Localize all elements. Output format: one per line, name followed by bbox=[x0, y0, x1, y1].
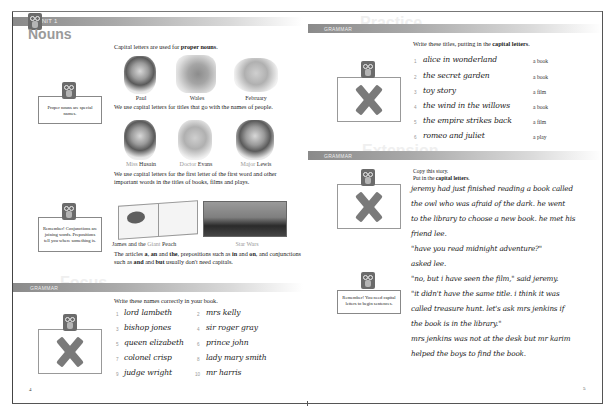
grammar-label: GRAMMAR bbox=[324, 26, 352, 32]
owl-mascot-icon bbox=[361, 169, 375, 186]
item-type: a book bbox=[533, 104, 548, 110]
page-border-top bbox=[12, 11, 308, 12]
story-line: to the library to choose a new book. he … bbox=[411, 214, 575, 223]
list-item: sir roger gray bbox=[206, 323, 258, 332]
note-box-conjunctions: Remember! Conjunctions are joining words… bbox=[38, 217, 102, 252]
grammar-label: GRAMMAR bbox=[30, 285, 58, 291]
list-item: the empire strikes back bbox=[423, 116, 512, 125]
owl-mascot-icon bbox=[361, 61, 375, 78]
cross-icon bbox=[354, 85, 384, 115]
page-border-bottom-right bbox=[306, 403, 603, 404]
page-border-left bbox=[12, 11, 13, 403]
giant-peach-book-picture bbox=[118, 200, 198, 240]
doctor-evans-picture bbox=[178, 120, 212, 160]
caption-february: February bbox=[236, 95, 276, 101]
grammar-header-bar: GRAMMAR bbox=[13, 283, 303, 292]
list-item: mrs kelly bbox=[206, 308, 241, 317]
wales-map-picture bbox=[176, 55, 216, 93]
list-item: the secret garden bbox=[423, 71, 490, 80]
page-border-right-outer bbox=[602, 11, 603, 404]
item-type: a film bbox=[533, 119, 546, 125]
caption-wales: Wales bbox=[180, 95, 214, 101]
list-item: toy story bbox=[423, 86, 456, 95]
list-item: queen elizabeth bbox=[124, 338, 184, 347]
story-line: "have you read midnight adventure?" bbox=[411, 244, 542, 253]
list-item: lady mary smith bbox=[206, 353, 267, 362]
caption-paul: Paul bbox=[128, 95, 154, 101]
owl-mascot-icon bbox=[62, 203, 76, 220]
exercise-box bbox=[38, 329, 102, 374]
item-type: a book bbox=[533, 58, 548, 64]
story-line: "it didn't have the same title. i think … bbox=[411, 289, 560, 298]
exercise-box bbox=[337, 77, 401, 122]
note-box-proper-nouns: Proper nouns are special names. bbox=[38, 96, 102, 124]
list-item: bishop jones bbox=[124, 323, 171, 332]
list-item: prince john bbox=[206, 338, 249, 347]
owl-mascot-icon bbox=[62, 82, 76, 99]
titles-text: We use capital letters for titles that g… bbox=[114, 103, 299, 111]
february-picture bbox=[234, 58, 278, 92]
cross-icon bbox=[55, 337, 85, 367]
story-line: the book is in the library." bbox=[411, 319, 501, 328]
story-line: the owl who was afraid of the dark. he w… bbox=[411, 199, 565, 208]
item-type: a play bbox=[533, 134, 547, 140]
caption-doctor-evans: Doctor Evans bbox=[170, 161, 222, 167]
list-item: romeo and juliet bbox=[423, 131, 485, 140]
story-line: mrs jenkins was not at the desk but mr k… bbox=[411, 334, 570, 343]
story-line: helped the boys to find the book. bbox=[411, 349, 526, 358]
list-item: mr harris bbox=[206, 368, 241, 377]
page-title: Nouns bbox=[28, 26, 72, 42]
story-line: friend lee. bbox=[411, 229, 447, 238]
articles-text: The articles a, an and the, prepositions… bbox=[114, 250, 302, 266]
miss-husain-picture bbox=[124, 120, 156, 160]
page-number-left: 4 bbox=[29, 387, 32, 392]
grammar-header-bar: GRAMMAR bbox=[308, 24, 602, 33]
cross-icon bbox=[354, 192, 384, 222]
list-item: judge wright bbox=[124, 368, 172, 377]
exercise-box bbox=[337, 184, 401, 229]
page-border-top-right bbox=[306, 11, 603, 12]
owl-mascot-icon bbox=[63, 314, 77, 331]
major-lewis-picture bbox=[236, 120, 274, 160]
list-item: alice in wonderland bbox=[423, 55, 497, 64]
story-line: jeremy had just finished reading a book … bbox=[411, 184, 573, 193]
caption-miss-husain: Miss Husain bbox=[118, 161, 164, 167]
intro-text: Capital letters are used for proper noun… bbox=[114, 43, 304, 51]
grammar-header-bar: GRAMMAR bbox=[308, 151, 602, 160]
page-number-right: 5 bbox=[583, 386, 586, 391]
owl-mascot-icon bbox=[361, 272, 375, 289]
story-instruction: Copy this story. Put in the capital lett… bbox=[413, 168, 603, 182]
titles-instruction: Write these titles, putting in the capit… bbox=[413, 40, 603, 48]
star-wars-film-picture bbox=[203, 201, 287, 237]
paul-picture bbox=[124, 56, 156, 94]
unit-header-bar: UNIT 1 bbox=[13, 17, 303, 26]
story-line: called treasure hunt. let's ask mrs jenk… bbox=[411, 304, 564, 313]
names-instruction: Write these names correctly in your book… bbox=[114, 297, 302, 305]
list-item: the wind in the willows bbox=[423, 101, 510, 110]
item-type: a book bbox=[533, 74, 548, 80]
story-line: asked lee. bbox=[411, 259, 446, 268]
grammar-label: GRAMMAR bbox=[324, 153, 352, 159]
item-type: a film bbox=[533, 89, 546, 95]
caption-major-lewis: Major Lewis bbox=[232, 161, 280, 167]
caption-giant-peach: James and the Giant Peach bbox=[112, 241, 202, 247]
story-line: "no, but i have seen the film," said jer… bbox=[411, 274, 558, 283]
list-item: lord lambeth bbox=[124, 308, 172, 317]
works-titles-text: We use capital letters for the first let… bbox=[114, 170, 300, 186]
list-item: colonel crisp bbox=[124, 353, 172, 362]
caption-star-wars: Star Wars bbox=[222, 241, 272, 247]
note-box-sentences: Remember! You need capital letters to be… bbox=[337, 290, 401, 314]
